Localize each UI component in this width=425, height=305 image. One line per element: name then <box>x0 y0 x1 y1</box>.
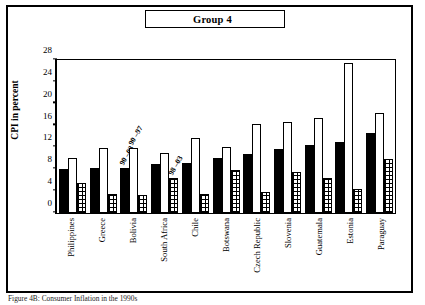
x-tick-label: Czech Republic <box>252 218 262 273</box>
bar <box>353 189 362 213</box>
bar-annotation: 90 –97 <box>126 124 144 147</box>
bar <box>151 164 160 213</box>
y-tick-label: 12 <box>43 132 57 142</box>
y-tick-label: 24 <box>43 67 57 77</box>
x-label-cell: Guatemala <box>303 216 334 288</box>
figure-root: Group 4 CPI in percent 2824201612840 90 … <box>0 0 425 305</box>
bar <box>344 63 353 213</box>
x-label-cell: Estonia <box>334 216 365 288</box>
x-label-cell: Greece <box>86 216 117 288</box>
x-tick-label: Greece <box>97 218 107 242</box>
bar <box>77 183 86 213</box>
bar <box>90 168 99 213</box>
x-tick-label: Estonia <box>345 218 355 244</box>
x-tick-label: Paraguay <box>376 218 386 250</box>
bar: 98 –03 <box>169 178 178 213</box>
x-label-cell: Philippines <box>55 216 86 288</box>
bar <box>200 194 209 213</box>
bar <box>191 138 200 213</box>
y-tick-label: 16 <box>43 111 57 121</box>
bar: 90 –97 <box>129 148 138 213</box>
x-tick-label: Slovenia <box>283 218 293 248</box>
x-tick-label: Philippines <box>66 218 76 257</box>
bar <box>384 159 393 213</box>
bar-group <box>88 60 119 213</box>
bar <box>213 158 222 213</box>
y-tick-label: 28 <box>43 45 57 55</box>
plot-area: 2824201612840 90 –0390 –9798 –03 <box>55 59 396 214</box>
bar <box>366 133 375 213</box>
bar <box>243 154 252 213</box>
bar <box>59 169 68 213</box>
x-label-cell: Botswana <box>210 216 241 288</box>
bar <box>68 158 77 213</box>
bar-group <box>57 60 88 213</box>
x-label-cell: Bolivia <box>117 216 148 288</box>
bar <box>108 194 117 213</box>
bar <box>138 195 147 213</box>
bar <box>99 148 108 213</box>
x-label-cell: Slovenia <box>272 216 303 288</box>
bar <box>314 118 323 213</box>
x-tick-label: South Africa <box>159 218 169 262</box>
y-tick-label: 8 <box>48 154 58 164</box>
bar <box>160 153 169 213</box>
y-axis-label: CPI in percent <box>10 67 20 153</box>
y-tick-label: 20 <box>43 89 57 99</box>
bar-group <box>364 60 395 213</box>
bar-group <box>180 60 211 213</box>
x-axis-labels: PhilippinesGreeceBoliviaSouth AfricaChil… <box>55 216 396 288</box>
chart-title: Group 4 <box>0 14 425 25</box>
bar-series-container: 90 –0390 –9798 –03 <box>57 60 395 213</box>
bar <box>252 124 261 213</box>
bar-group: 90 –0390 –97 <box>118 60 149 213</box>
bar-group <box>211 60 242 213</box>
x-tick-label: Guatemala <box>314 218 324 255</box>
x-label-cell: Paraguay <box>365 216 396 288</box>
x-label-cell: South Africa <box>148 216 179 288</box>
bar <box>261 192 270 213</box>
bar-group <box>303 60 334 213</box>
x-tick-label: Botswana <box>221 218 231 252</box>
y-tick-label: 0 <box>48 198 58 208</box>
x-label-cell: Chile <box>179 216 210 288</box>
bar-group: 98 –03 <box>149 60 180 213</box>
x-label-cell: Czech Republic <box>241 216 272 288</box>
bar <box>231 170 240 213</box>
figure-caption: Figure 4B: Consumer Inflation in the 199… <box>8 294 423 303</box>
bar <box>305 145 314 213</box>
bar-group <box>272 60 303 213</box>
bar-group <box>334 60 365 213</box>
bar <box>283 122 292 213</box>
bar <box>292 172 301 213</box>
y-tick-label: 4 <box>48 176 58 186</box>
x-tick-label: Chile <box>190 218 200 237</box>
bar <box>182 163 191 213</box>
x-tick-label: Bolivia <box>128 218 138 243</box>
bar <box>274 149 283 213</box>
bar-group <box>241 60 272 213</box>
bar <box>335 142 344 213</box>
bar <box>222 147 231 213</box>
bar <box>323 178 332 213</box>
bar: 90 –03 <box>120 168 129 213</box>
bar <box>375 113 384 213</box>
